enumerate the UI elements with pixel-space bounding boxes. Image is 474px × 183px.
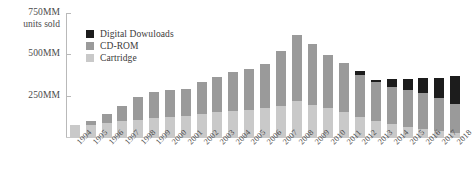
y-axis-caption: units sold: [0, 19, 60, 29]
bar-column[interactable]: [371, 13, 381, 137]
bar-segment: [197, 82, 207, 114]
bar-segment: [308, 44, 318, 105]
bar-segment: [387, 87, 397, 124]
y-axis-tick-label: 250MM: [0, 90, 60, 100]
bar-stack: [323, 55, 333, 137]
bar-segment: [117, 106, 127, 122]
bar-column[interactable]: [228, 13, 238, 137]
bar-segment: [260, 64, 270, 108]
chart-legend: Digital DowuloadsCD-ROMCartridge: [86, 28, 174, 64]
bar-stack: [339, 63, 349, 137]
bar-segment: [434, 98, 444, 131]
legend-item[interactable]: Cartridge: [86, 52, 174, 63]
bar-segment: [418, 78, 428, 94]
bar-segment: [387, 79, 397, 87]
bar-column[interactable]: [244, 13, 254, 137]
bar-column[interactable]: [339, 13, 349, 137]
bar-segment: [133, 97, 143, 120]
bar-segment: [450, 76, 460, 105]
bar-column[interactable]: [434, 13, 444, 137]
bar-segment: [323, 55, 333, 108]
legend-swatch-icon: [86, 30, 94, 38]
bar-column[interactable]: [70, 13, 80, 137]
bar-column[interactable]: [387, 13, 397, 137]
bar-segment: [244, 69, 254, 110]
bar-column[interactable]: [181, 13, 191, 137]
bar-segment: [165, 90, 175, 117]
y-axis-tick-label: 500MM: [0, 48, 60, 58]
bar-column[interactable]: [292, 13, 302, 137]
legend-item-label: Cartridge: [100, 53, 137, 63]
bar-segment: [276, 51, 286, 106]
bar-column[interactable]: [197, 13, 207, 137]
y-axis-tick-label: 750MM: [0, 7, 60, 17]
bar-column[interactable]: [212, 13, 222, 137]
bar-segment: [212, 77, 222, 113]
legend-item-label: Digital Dowuloads: [100, 29, 174, 39]
bar-column[interactable]: [323, 13, 333, 137]
bar-segment: [403, 79, 413, 89]
bar-stack: [276, 51, 286, 137]
bar-segment: [403, 90, 413, 127]
legend-item-label: CD-ROM: [100, 41, 139, 51]
bar-segment: [418, 93, 428, 129]
bar-column[interactable]: [276, 13, 286, 137]
bar-column[interactable]: [418, 13, 428, 137]
bar-segment: [228, 72, 238, 111]
bar-segment: [434, 78, 444, 98]
bar-column[interactable]: [355, 13, 365, 137]
bar-column[interactable]: [403, 13, 413, 137]
bar-stack: [308, 44, 318, 137]
bar-column[interactable]: [260, 13, 270, 137]
bar-column[interactable]: [450, 13, 460, 137]
legend-swatch-icon: [86, 42, 94, 50]
bar-column[interactable]: [308, 13, 318, 137]
bar-segment: [181, 89, 191, 117]
legend-item[interactable]: Digital Dowuloads: [86, 28, 174, 39]
bar-stack: [260, 64, 270, 137]
bar-segment: [371, 82, 381, 122]
bar-segment: [339, 63, 349, 113]
bar-segment: [355, 75, 365, 117]
bar-segment: [292, 35, 302, 101]
bar-segment: [102, 114, 112, 123]
bar-segment: [149, 92, 159, 118]
legend-swatch-icon: [86, 54, 94, 62]
legend-item[interactable]: CD-ROM: [86, 40, 174, 51]
bar-stack: [292, 35, 302, 137]
